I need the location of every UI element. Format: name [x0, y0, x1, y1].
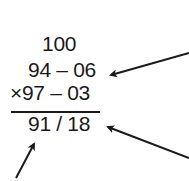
annotation-arrows — [0, 0, 189, 181]
arrow-to-left-result-icon — [16, 144, 34, 178]
arrow-to-right-result-icon — [108, 127, 189, 158]
arrow-to-first-row-icon — [111, 53, 189, 75]
